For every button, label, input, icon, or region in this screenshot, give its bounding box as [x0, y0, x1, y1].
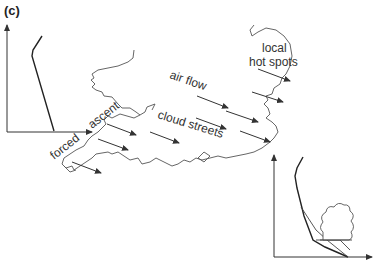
coastline-outline: [62, 25, 292, 170]
left-profile-plot: [7, 25, 92, 132]
arrow-ascent-2: [98, 139, 128, 150]
label-air-flow: air flow: [168, 68, 209, 94]
label-local: local: [262, 41, 287, 55]
arrow-forced-1: [72, 162, 101, 173]
panel-label: (c): [4, 3, 20, 18]
cumulus-cloud-icon: [321, 203, 354, 240]
arrow-cloud-street-2: [240, 131, 270, 142]
label-hot-spots: hot spots: [249, 55, 298, 69]
arrow-cloud-street-3: [150, 132, 179, 143]
diagram-canvas: (c) local hot spots air flow ascent forc…: [0, 0, 374, 266]
coastline-map: [62, 25, 292, 172]
left-lapse-curve: [32, 36, 54, 131]
arrow-airflow-1: [197, 96, 228, 108]
label-cloud-streets: cloud streets: [156, 107, 225, 140]
right-profile-plot: [274, 155, 372, 257]
arrow-ascent-1: [107, 124, 136, 135]
arrow-airflow-2: [226, 111, 258, 122]
isle-of-wight: [198, 152, 210, 162]
